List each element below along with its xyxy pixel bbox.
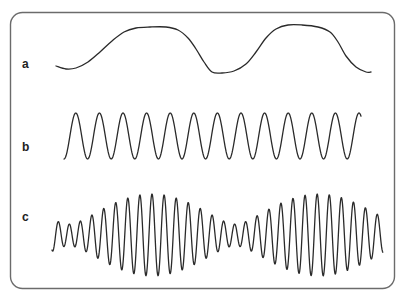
panel-label-b: b [22,141,29,153]
wave-a-trace [56,25,371,74]
panel-label-c: c [22,211,29,223]
wave-b-trace [64,113,361,159]
panel-label-a: a [22,58,29,70]
figure-canvas [0,0,406,301]
wave-c-trace [52,194,383,276]
waveform-figure: a b c [0,0,406,301]
